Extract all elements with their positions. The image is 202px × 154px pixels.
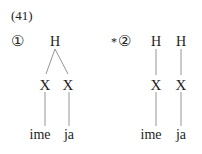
tree-2-label: ② — [118, 33, 131, 49]
tree-1-x-node-2: X — [63, 77, 74, 93]
ungrammatical-star: * — [111, 35, 117, 49]
tree-2-h-node-1: H — [151, 34, 161, 49]
tree-1-h-node: H — [50, 34, 60, 49]
tree-1-x-node-1: X — [40, 77, 51, 93]
association-line — [55, 49, 68, 74]
association-line — [46, 49, 55, 74]
tree-2-leaf-ja: ja — [175, 127, 187, 142]
tree-1-leaf-ja: ja — [63, 127, 75, 142]
tree-2-x-node-2: X — [176, 77, 187, 93]
autosegmental-diagram: (41) ① H X X ime ja * ② H H X X ime ja — [0, 0, 202, 154]
tree-2-leaf-ime: ime — [141, 127, 162, 142]
example-number: (41) — [11, 8, 33, 23]
tree-1: ① H X X ime ja — [11, 33, 75, 142]
tree-2-x-node-1: X — [151, 77, 162, 93]
tree-1-label: ① — [11, 33, 24, 49]
tree-2-h-node-2: H — [176, 34, 186, 49]
tree-2: * ② H H X X ime ja — [111, 33, 187, 142]
tree-1-leaf-ime: ime — [30, 127, 51, 142]
